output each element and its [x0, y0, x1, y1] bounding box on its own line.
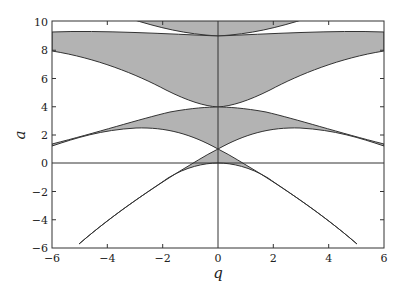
x-tick-label: 4 — [325, 252, 332, 265]
x-tick-label: 6 — [381, 252, 388, 265]
x-tick-label: −2 — [155, 252, 171, 265]
x-axis-label: q — [213, 264, 223, 282]
plot-area — [52, 18, 384, 248]
y-tick-label: 8 — [41, 44, 48, 57]
stability-chart: −6 −4 −2 0 2 4 6 −6 −4 −2 0 2 4 6 8 10 q… — [0, 0, 405, 294]
y-tick-label: −2 — [32, 186, 48, 199]
y-tick-label: −6 — [32, 242, 48, 255]
y-tick-label: 4 — [41, 101, 48, 114]
y-tick-label: 10 — [34, 16, 48, 29]
x-tick-label: 2 — [270, 252, 277, 265]
y-tick-label: −4 — [32, 214, 48, 227]
y-tick-label: 6 — [41, 73, 48, 86]
x-tick-label: −4 — [99, 252, 115, 265]
y-tick-label: 0 — [41, 157, 48, 170]
y-axis-label: a — [11, 131, 29, 140]
y-tick-label: 2 — [41, 129, 48, 142]
y-tick-labels: −6 −4 −2 0 2 4 6 8 10 — [32, 16, 48, 255]
